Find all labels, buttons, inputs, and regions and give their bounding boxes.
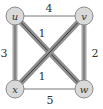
node-label-u: u	[12, 11, 18, 22]
edge-weight-v-x: 1	[39, 70, 46, 83]
edge-weight-u-x: 3	[1, 47, 8, 60]
edge-weight-x-w: 5	[47, 94, 54, 107]
node-w: w	[75, 80, 93, 98]
node-label-x: x	[12, 84, 18, 95]
edge-weight-u-v: 4	[46, 2, 53, 15]
node-v: v	[75, 7, 93, 25]
graph-canvas: 4 3 2 5 1 1 u v x w	[0, 0, 103, 109]
weighted-graph-diagram: 4 3 2 5 1 1 u v x w	[0, 0, 103, 109]
node-x: x	[6, 80, 24, 98]
edge-weight-u-w: 1	[39, 27, 46, 40]
node-label-w: w	[80, 84, 89, 95]
node-u: u	[6, 7, 24, 25]
node-label-v: v	[81, 11, 87, 22]
edge-weight-v-w: 2	[92, 47, 99, 60]
